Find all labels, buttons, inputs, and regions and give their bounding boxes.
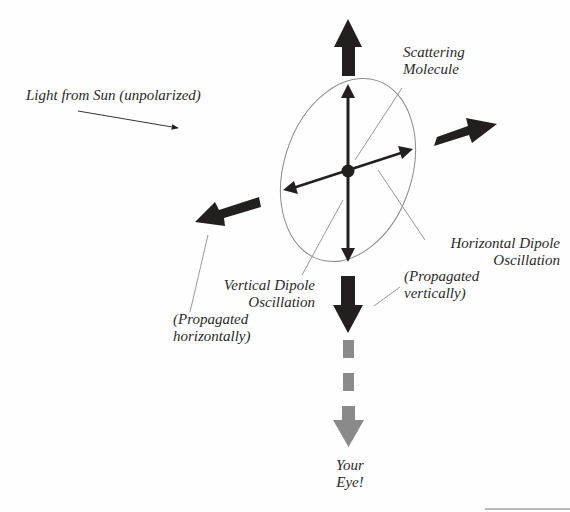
sunlight-label: Light from Sun (unpolarized) [26,87,201,104]
horizontal-dipole-line2: Oscillation [430,252,560,269]
horizontal-dipole-label: Horizontal Dipole Oscillation [430,235,560,269]
horizontal-dipole-line1: Horizontal Dipole [430,235,560,252]
leader-molecule [355,88,402,160]
vertical-dipole-label: Vertical Dipole Oscillation [205,277,315,311]
scatter-arrow-up [334,19,362,76]
eye-label-line2: Eye! [325,474,375,491]
molecule-label-line2: Molecule [403,61,465,78]
eye-arrow-head [333,406,364,447]
leader-prop-vertical [374,287,400,306]
molecule-label-line1: Scattering [403,44,465,61]
vertical-dipole-line2: Oscillation [205,294,315,311]
scatter-arrow-left [195,197,261,226]
prop-horizontal-label: (Propagated horizontally) [173,311,251,345]
sunlight-arrow [78,111,178,128]
molecule-label: Scattering Molecule [403,44,465,78]
leader-horizontal [378,170,425,240]
vertical-dipole-line1: Vertical Dipole [205,277,315,294]
prop-horizontal-line2: horizontally) [173,328,251,345]
leader-vertical [302,200,343,275]
scatter-arrow-down [333,276,363,333]
prop-horizontal-line1: (Propagated [173,311,251,328]
prop-vertical-label: (Propagated vertically) [404,268,479,302]
eye-label: Your Eye! [325,457,375,491]
eye-dash-2 [343,373,354,391]
diagram-canvas: Light from Sun (unpolarized) Scattering … [0,0,570,512]
eye-label-line1: Your [325,457,375,474]
scatter-arrow-right [434,118,497,146]
prop-vertical-line1: (Propagated [404,268,479,285]
prop-vertical-line2: vertically) [404,285,479,302]
molecule-dot [342,165,355,178]
eye-dash-1 [343,340,354,358]
